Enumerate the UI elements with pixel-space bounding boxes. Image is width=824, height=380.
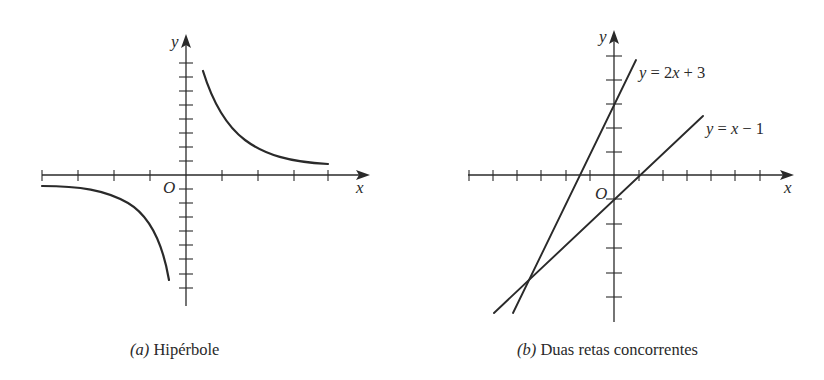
- y-axis-label: y: [169, 32, 179, 51]
- caption-b-prefix: (b): [517, 340, 536, 359]
- y-axis-label: y: [597, 27, 607, 46]
- caption-b: (b) Duas retas concorrentes: [517, 340, 698, 359]
- two-lines-graph: y x O y = 2x + 3 y = x − 1 (b) Duas reta…: [468, 27, 794, 359]
- origin-label: O: [595, 184, 607, 203]
- hyperbola-graph: y x O (a) Hipérbole: [42, 32, 370, 359]
- x-axis-label: x: [783, 178, 792, 197]
- label-y-x-minus-1: y = x − 1: [704, 119, 764, 138]
- hyperbola-upper-branch: [203, 71, 328, 164]
- caption-b-text: Duas retas concorrentes: [536, 340, 698, 359]
- hyperbola-lower-branch: [42, 186, 169, 280]
- caption-a-prefix: (a): [130, 340, 149, 359]
- label-y-2x-plus-3: y = 2x + 3: [637, 63, 705, 82]
- figure: y x O (a) Hipérbole: [0, 0, 824, 380]
- caption-a: (a) Hipérbole: [130, 340, 219, 359]
- x-axis-label: x: [355, 178, 364, 197]
- origin-label: O: [163, 178, 175, 197]
- line-y-x-minus-1: [494, 116, 703, 313]
- line-y-2x-plus-3: [513, 60, 636, 313]
- caption-a-text: Hipérbole: [149, 340, 219, 359]
